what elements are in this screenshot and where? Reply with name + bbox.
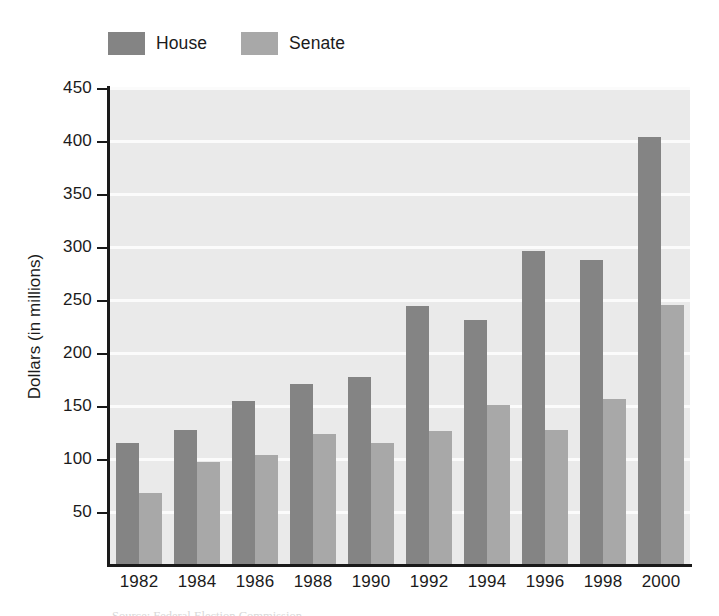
bar-house-1996: [522, 251, 545, 565]
bar-group: [458, 88, 516, 565]
x-label-2000: 2000: [642, 572, 681, 592]
x-label-1984: 1984: [178, 572, 217, 592]
legend-entry-house: House: [108, 32, 207, 55]
x-label-1994: 1994: [468, 572, 507, 592]
bar-senate-2000: [661, 305, 684, 565]
legend-swatch-senate: [241, 32, 278, 55]
y-tick-label: 100: [30, 449, 92, 469]
bar-house-2000: [638, 137, 661, 565]
y-tick: [97, 512, 108, 514]
y-tick: [97, 406, 108, 408]
bar-house-1982: [116, 443, 139, 565]
y-tick-label: 350: [30, 184, 92, 204]
y-tick: [97, 247, 108, 249]
bar-house-1986: [232, 401, 255, 565]
y-axis-line: [107, 86, 110, 567]
x-label-1986: 1986: [236, 572, 275, 592]
x-label-1992: 1992: [410, 572, 449, 592]
bar-senate-1984: [197, 462, 220, 565]
x-label-1982: 1982: [120, 572, 159, 592]
bar-group: [226, 88, 284, 565]
bar-group: [284, 88, 342, 565]
y-tick-label: 200: [30, 343, 92, 363]
legend-label-house: House: [156, 33, 207, 54]
x-label-1998: 1998: [584, 572, 623, 592]
bar-group: [574, 88, 632, 565]
y-tick: [97, 88, 108, 90]
bar-house-1984: [174, 430, 197, 565]
y-tick-label: 250: [30, 290, 92, 310]
y-tick-label: 450: [30, 78, 92, 98]
bar-group: [342, 88, 400, 565]
bar-house-1992: [406, 306, 429, 565]
x-label-1988: 1988: [294, 572, 333, 592]
bar-house-1988: [290, 384, 313, 565]
bar-group: [632, 88, 690, 565]
y-tick-label: 50: [30, 502, 92, 522]
bar-senate-1982: [139, 493, 162, 565]
legend-label-senate: Senate: [289, 33, 345, 54]
bar-house-1990: [348, 377, 371, 565]
y-tick: [97, 141, 108, 143]
bar-group: [400, 88, 458, 565]
legend-entry-senate: Senate: [241, 32, 345, 55]
bar-senate-1996: [545, 430, 568, 565]
y-tick-label: 150: [30, 396, 92, 416]
x-label-1996: 1996: [526, 572, 565, 592]
bar-senate-1990: [371, 443, 394, 565]
bar-group: [168, 88, 226, 565]
y-tick: [97, 194, 108, 196]
source-caption: Source: Federal Election Commission: [112, 609, 582, 616]
bar-chart-figure: House Senate Dollars (in millions) 50100…: [0, 0, 719, 616]
bar-senate-1992: [429, 431, 452, 565]
bar-senate-1986: [255, 455, 278, 565]
plot-area: [110, 88, 690, 565]
y-tick-label: 400: [30, 131, 92, 151]
chart-legend: House Senate: [108, 28, 345, 58]
bar-house-1998: [580, 260, 603, 565]
y-tick-label: 300: [30, 237, 92, 257]
x-axis-line: [107, 564, 692, 567]
bar-group: [516, 88, 574, 565]
bar-senate-1998: [603, 399, 626, 565]
bar-house-1994: [464, 320, 487, 565]
y-tick: [97, 300, 108, 302]
bar-group: [110, 88, 168, 565]
y-axis-title: Dollars (in millions): [22, 88, 48, 565]
bar-senate-1988: [313, 434, 336, 565]
bar-senate-1994: [487, 405, 510, 565]
y-tick: [97, 353, 108, 355]
y-tick: [97, 459, 108, 461]
x-label-1990: 1990: [352, 572, 391, 592]
legend-swatch-house: [108, 32, 145, 55]
